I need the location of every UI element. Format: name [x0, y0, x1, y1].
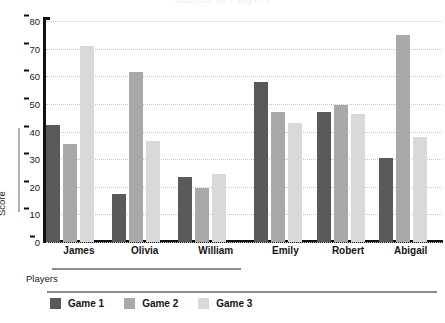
x-axis-label-emily: Emily — [254, 245, 317, 261]
chart-title: Scores of Players — [0, 0, 445, 5]
bar — [80, 46, 94, 242]
bar — [334, 105, 348, 242]
plot-area: 80706050403020100 — [46, 21, 442, 242]
y-axis-tick-label: 50 — [29, 98, 40, 109]
legend-swatch-icon — [124, 298, 135, 309]
legend-label: Game 3 — [216, 298, 252, 309]
bar — [46, 125, 60, 242]
y-axis-tick-mark — [24, 125, 29, 127]
y-axis-tick-mark — [24, 97, 29, 99]
gridline — [46, 242, 442, 243]
y-axis-tick-mark — [24, 208, 29, 210]
bar — [195, 188, 209, 242]
bar — [146, 141, 160, 242]
bar — [288, 123, 302, 242]
bar-group — [178, 21, 254, 242]
bar — [413, 137, 427, 242]
x-axis-labels: JamesOliviaWilliamEmilyRobertAbigail — [46, 245, 442, 261]
legend-item[interactable]: Game 3 — [198, 298, 252, 309]
bar — [379, 158, 393, 242]
legend-swatch-icon — [198, 298, 209, 309]
bar — [112, 194, 126, 242]
bar-group — [317, 21, 380, 242]
y-axis-tick-mark — [24, 70, 29, 72]
chart-legend: Game 1Game 2Game 3 — [50, 298, 272, 309]
x-axis-title: Players — [26, 273, 58, 284]
x-axis-label-robert: Robert — [317, 245, 380, 261]
x-axis-label-william: William — [178, 245, 254, 261]
bar — [254, 82, 268, 242]
bar — [351, 114, 365, 242]
y-axis-tick-label: 0 — [35, 237, 40, 248]
bar — [396, 35, 410, 242]
legend-rule — [47, 291, 437, 293]
y-axis-tick-label: 40 — [29, 126, 40, 137]
bar-chart: Scores of Players 80706050403020100 Jame… — [0, 0, 445, 323]
bar — [178, 177, 192, 242]
y-axis-title: Score — [0, 191, 7, 216]
y-axis-tick-label: 80 — [29, 16, 40, 27]
y-axis-tick-label: 20 — [29, 181, 40, 192]
y-axis-tick-label: 30 — [29, 154, 40, 165]
x-axis-title-rule — [52, 268, 241, 270]
y-axis-tick-mark — [24, 15, 29, 17]
bar-group — [46, 21, 112, 242]
legend-item[interactable]: Game 2 — [124, 298, 178, 309]
x-axis-label-olivia: Olivia — [112, 245, 178, 261]
legend-item[interactable]: Game 1 — [50, 298, 104, 309]
legend-label: Game 2 — [142, 298, 178, 309]
bar-group — [254, 21, 317, 242]
legend-swatch-icon — [50, 298, 61, 309]
y-axis-tick-mark — [30, 236, 35, 238]
y-axis-tick-mark — [24, 42, 29, 44]
y-axis-tick-label: 70 — [29, 43, 40, 54]
bar — [63, 144, 77, 242]
x-axis-label-james: James — [46, 245, 112, 261]
bar-groups — [46, 21, 442, 242]
y-axis-tick-label: 60 — [29, 71, 40, 82]
y-axis-tick-label: 10 — [29, 209, 40, 220]
legend-label: Game 1 — [68, 298, 104, 309]
bar-group — [379, 21, 442, 242]
y-axis-tick-mark — [24, 180, 29, 182]
bar — [317, 112, 331, 242]
bar — [129, 72, 143, 242]
bar — [212, 174, 226, 242]
bar-group — [112, 21, 178, 242]
y-axis-title-rule — [18, 128, 20, 212]
x-axis-label-abigail: Abigail — [379, 245, 442, 261]
bar — [271, 112, 285, 242]
y-axis-tick-mark — [24, 153, 29, 155]
